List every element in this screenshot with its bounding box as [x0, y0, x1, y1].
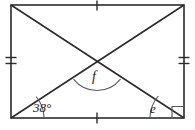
angle-label-f: f [92, 70, 96, 84]
angle-label-38: 38° [33, 101, 51, 114]
geometry-canvas [0, 0, 195, 130]
geometry-figure: 38° f e [0, 0, 195, 130]
angle-label-e: e [150, 102, 156, 115]
angle-arc-f [74, 79, 121, 90]
